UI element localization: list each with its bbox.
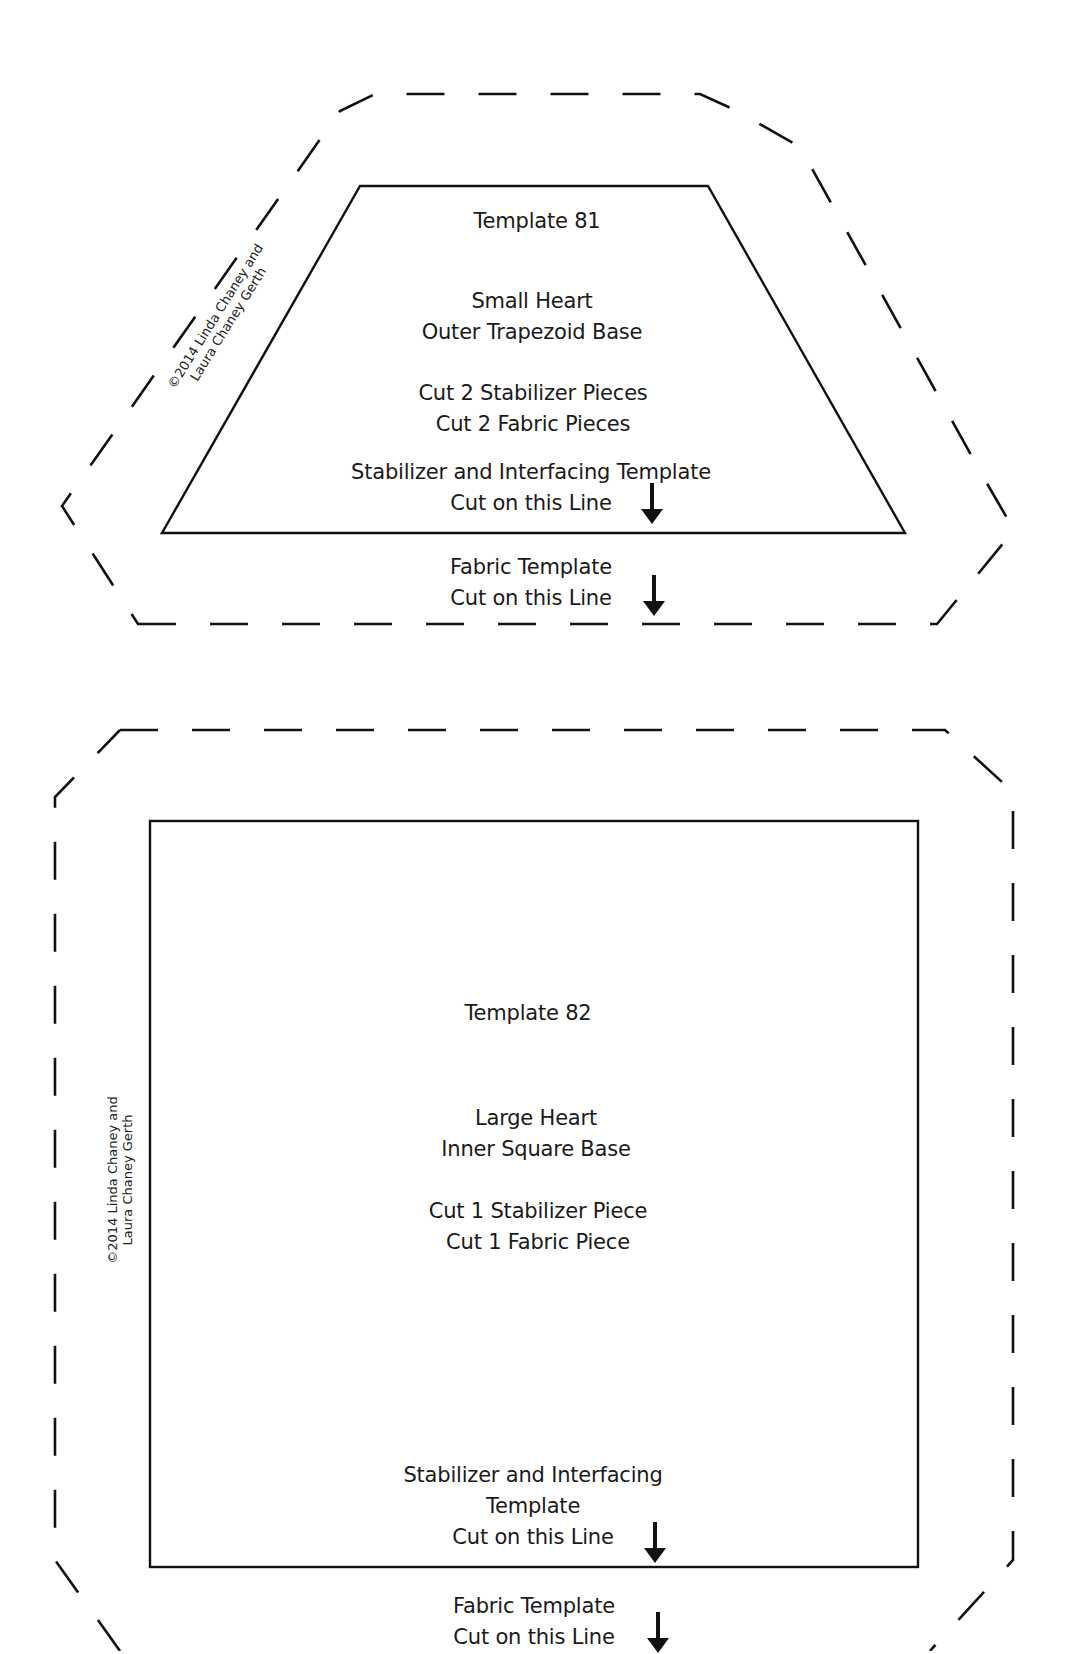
fabric-label-line: Fabric Template <box>450 552 612 583</box>
template-title: Template 82 <box>464 998 591 1029</box>
stabilizer-label-line: Stabilizer and Interfacing <box>403 1460 662 1491</box>
description-line: Small Heart <box>422 286 643 317</box>
template-82-title: Template 82 <box>464 998 591 1029</box>
fabric-label-line: Fabric Template <box>453 1591 615 1622</box>
down-arrow-icon <box>644 1522 666 1564</box>
stabilizer-label-line: Cut on this Line <box>403 1522 662 1553</box>
down-arrow-icon <box>641 483 663 525</box>
template-82-copyright: ©2014 Linda Chaney and Laura Chaney Gert… <box>105 1096 135 1263</box>
fabric-label-line: Cut on this Line <box>450 583 612 614</box>
cut-instruction: Cut 1 Stabilizer Piece <box>429 1196 647 1227</box>
cut-instruction: Cut 2 Fabric Pieces <box>418 409 647 440</box>
template-82-description: Large Heart Inner Square Base <box>441 1103 630 1165</box>
template-82-cut-instructions: Cut 1 Stabilizer Piece Cut 1 Fabric Piec… <box>429 1196 647 1258</box>
template-81-fabric-label: Fabric Template Cut on this Line <box>450 552 612 614</box>
description-line: Inner Square Base <box>441 1134 630 1165</box>
description-line: Outer Trapezoid Base <box>422 317 643 348</box>
copyright-line: Laura Chaney Gerth <box>120 1096 135 1263</box>
down-arrow-icon <box>647 1612 669 1654</box>
template-81-title: Template 81 <box>473 206 600 237</box>
description-line: Large Heart <box>441 1103 630 1134</box>
template-81-cut-instructions: Cut 2 Stabilizer Pieces Cut 2 Fabric Pie… <box>418 378 647 440</box>
template-81-description: Small Heart Outer Trapezoid Base <box>422 286 643 348</box>
down-arrow-icon <box>643 575 665 617</box>
copyright-line: ©2014 Linda Chaney and <box>105 1096 120 1263</box>
stabilizer-label-line: Template <box>403 1491 662 1522</box>
cut-instruction: Cut 2 Stabilizer Pieces <box>418 378 647 409</box>
template-82-stabilizer-label: Stabilizer and Interfacing Template Cut … <box>403 1460 662 1553</box>
fabric-label-line: Cut on this Line <box>453 1622 615 1653</box>
cut-instruction: Cut 1 Fabric Piece <box>429 1227 647 1258</box>
template-title: Template 81 <box>473 206 600 237</box>
template-82-square <box>150 821 918 1567</box>
template-82-fabric-label: Fabric Template Cut on this Line <box>453 1591 615 1653</box>
